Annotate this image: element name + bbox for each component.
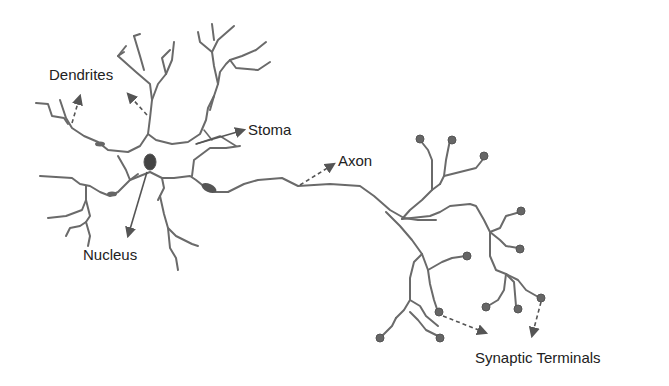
dendrites-arrow-right xyxy=(128,94,147,115)
label-axon: Axon xyxy=(338,152,372,169)
axon-terminals xyxy=(376,135,545,342)
stoma-arrow xyxy=(196,130,244,144)
dendrites xyxy=(36,24,270,270)
axon-arrow xyxy=(300,164,334,185)
label-dendrites: Dendrites xyxy=(49,66,113,83)
axon-hillock xyxy=(200,181,218,195)
neuron-diagram: Dendrites Stoma Axon Nucleus Synaptic Te… xyxy=(0,0,669,386)
annotation-arrows xyxy=(72,94,541,336)
axon xyxy=(228,178,436,220)
nucleus-arrow xyxy=(128,172,147,236)
label-synaptic-terminals: Synaptic Terminals xyxy=(475,349,601,366)
label-nucleus: Nucleus xyxy=(83,246,137,263)
synaptic-arrow-left xyxy=(443,316,486,333)
dendrites-arrow-left xyxy=(72,96,80,123)
label-stoma: Stoma xyxy=(248,121,292,138)
synaptic-arrow-right xyxy=(532,302,541,336)
nucleus xyxy=(144,154,156,170)
